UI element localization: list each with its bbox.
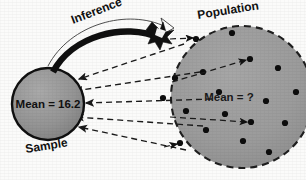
inference-arc (53, 31, 160, 72)
population-dot (203, 127, 209, 133)
sampling-arrow (79, 127, 186, 150)
population-dot (240, 138, 246, 144)
inference-label: Inference (69, 0, 124, 27)
population-dot (247, 56, 253, 62)
population-dot (177, 140, 183, 146)
population-dot (248, 119, 254, 125)
sample-mean-label: Mean = 16.2 (16, 98, 81, 110)
inference-arrow-group (48, 18, 174, 72)
population-dot (275, 65, 281, 71)
population-group: Mean = ? (160, 26, 306, 168)
sampling-arrow (79, 44, 184, 79)
population-dot (222, 111, 228, 117)
population-dot (293, 89, 299, 95)
population-internal-arrow (170, 38, 193, 39)
population-dot (183, 108, 189, 114)
population-dot (229, 30, 235, 36)
sample-label: Sample (24, 135, 69, 156)
population-mean-label: Mean = ? (204, 91, 254, 103)
population-dot (282, 120, 288, 126)
population-dot (193, 36, 199, 42)
sample-group: Mean = 16.2 (12, 68, 84, 140)
inference-diagram: Mean = ? Mean = 16.2 (0, 0, 306, 180)
population-dot (263, 98, 269, 104)
population-label: Population (196, 0, 259, 22)
population-dot (266, 149, 272, 155)
diagram-canvas: Mean = ? Mean = 16.2 (0, 0, 306, 180)
